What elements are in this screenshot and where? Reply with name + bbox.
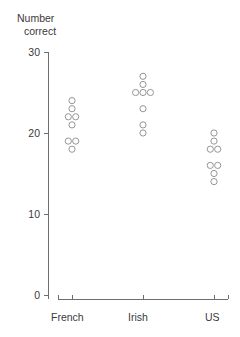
data-point <box>69 146 75 152</box>
data-point <box>211 138 217 144</box>
data-point <box>140 81 146 87</box>
data-point <box>211 179 217 185</box>
dot-plot-chart: Number correct 30 20 10 0 French Irish U… <box>0 0 240 337</box>
data-point <box>211 130 217 136</box>
data-point <box>140 130 146 136</box>
data-point <box>133 89 139 95</box>
data-point <box>207 162 213 168</box>
data-point <box>73 138 79 144</box>
data-point <box>140 122 146 128</box>
plot-area <box>0 0 240 337</box>
data-points-group <box>65 73 221 184</box>
data-point <box>211 170 217 176</box>
data-point <box>73 114 79 120</box>
data-point <box>147 89 153 95</box>
data-point <box>69 98 75 104</box>
data-point <box>215 162 221 168</box>
data-point <box>69 106 75 112</box>
data-point <box>207 146 213 152</box>
data-point <box>140 73 146 79</box>
data-point <box>65 138 71 144</box>
data-point <box>215 146 221 152</box>
data-point <box>140 89 146 95</box>
data-point <box>69 122 75 128</box>
data-point <box>65 114 71 120</box>
data-point <box>140 106 146 112</box>
